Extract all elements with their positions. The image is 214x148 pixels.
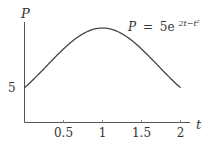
svg-text:P = 5e 2t−t²: P = 5e 2t−t² xyxy=(127,19,200,34)
x-axis-label: t xyxy=(196,117,202,132)
data-line xyxy=(25,28,181,88)
chart: P t 5 0.5 1 1.5 2 P = 5e 2t−t² xyxy=(0,0,214,148)
formula-annotation: P = 5e 2t−t² xyxy=(127,19,200,34)
x-tick-label: 1 xyxy=(99,126,107,140)
x-tick-label: 1.5 xyxy=(132,126,151,140)
y-axis-label: P xyxy=(20,6,30,21)
x-tick-label: 2 xyxy=(177,126,185,140)
x-tick-label: 0.5 xyxy=(54,126,73,140)
y-tick-label: 5 xyxy=(8,81,16,95)
